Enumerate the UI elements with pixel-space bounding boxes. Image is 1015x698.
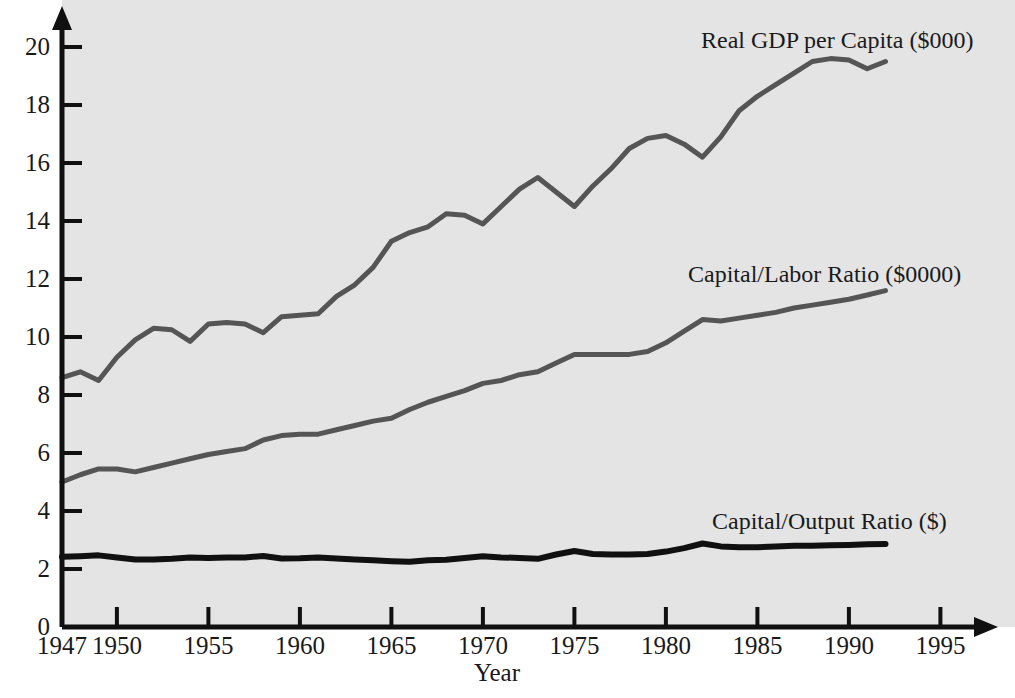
chart-canvas <box>0 0 1015 698</box>
series-line-2 <box>62 291 886 482</box>
series-line-1 <box>62 59 886 381</box>
y-tick-label: 4 <box>6 498 50 523</box>
y-tick-label: 16 <box>6 150 50 175</box>
x-axis-title: Year <box>397 660 597 685</box>
x-tick-label: 1995 <box>885 633 995 658</box>
series-label-2: Capital/Labor Ratio ($0000) <box>688 262 961 286</box>
y-tick-label: 20 <box>6 34 50 59</box>
series-line-3 <box>62 543 886 561</box>
data-series-group <box>62 59 886 562</box>
series-label-1: Real GDP per Capita ($000) <box>701 28 973 52</box>
y-tick-label: 14 <box>6 208 50 233</box>
y-tick-label: 8 <box>6 382 50 407</box>
y-tick-label: 18 <box>6 92 50 117</box>
series-label-3: Capital/Output Ratio ($) <box>712 509 947 533</box>
y-axis-arrow-icon <box>52 6 72 30</box>
y-tick-label: 2 <box>6 556 50 581</box>
y-tick-label: 12 <box>6 266 50 291</box>
y-tick-label: 10 <box>6 324 50 349</box>
chart-figure: 02468101214161820 1947195019551960196519… <box>0 0 1015 698</box>
y-tick-label: 6 <box>6 440 50 465</box>
